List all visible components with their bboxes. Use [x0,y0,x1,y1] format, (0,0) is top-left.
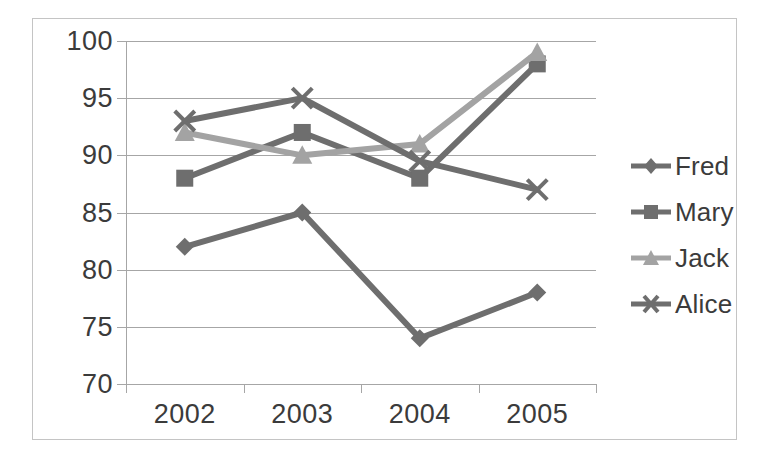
y-tick-label: 70 [41,371,113,398]
legend-label: Fred [675,151,729,182]
y-tick-label: 90 [41,142,113,169]
x-tick-label: 2002 [154,399,216,430]
x-tick-mark [244,384,245,393]
chart-frame: 100 95 90 85 80 75 70 2002 [32,18,737,440]
x-tick-label: 2004 [389,399,451,430]
data-point-diamond-icon [176,238,194,256]
legend-label: Jack [675,243,729,274]
series-layer [126,41,596,384]
legend-key-triangle-icon [629,246,673,270]
y-tick-mark [117,213,126,214]
series-line [185,64,538,178]
y-tick-mark [117,41,126,42]
series-jack [175,42,548,163]
legend-label: Mary [675,197,734,228]
y-axis-labels: 100 95 90 85 80 75 70 [41,19,113,441]
series-mary [176,55,546,186]
data-point-triangle-icon [527,42,547,61]
x-tick-label: 2003 [271,399,333,430]
data-point-square-icon [411,170,428,187]
y-tick-label: 85 [41,199,113,226]
y-tick-mark [117,98,126,99]
data-point-diamond-icon [528,284,546,302]
y-tick-label: 80 [41,256,113,283]
y-tick-mark [117,327,126,328]
legend-key-square-icon [629,200,673,224]
legend-item-jack[interactable]: Jack [629,235,739,281]
data-point-square-icon [176,170,193,187]
x-tick-mark [479,384,480,393]
x-tick-mark [361,384,362,393]
series-fred [176,204,547,348]
legend: Fred Mary Jack [629,143,739,327]
legend-item-alice[interactable]: Alice [629,281,739,327]
x-tick-mark [596,384,597,393]
data-point-square-icon [294,124,311,141]
legend-label: Alice [675,289,732,320]
series-line [185,213,538,339]
x-tick-mark [126,384,127,393]
legend-key-cross-icon [629,292,673,316]
y-tick-label: 95 [41,85,113,112]
legend-key-diamond-icon [629,154,673,178]
series-line [185,52,538,155]
legend-item-fred[interactable]: Fred [629,143,739,189]
y-tick-mark [117,155,126,156]
y-tick-label: 75 [41,313,113,340]
y-tick-mark [117,270,126,271]
y-tick-mark [117,384,126,385]
y-tick-label: 100 [41,28,113,55]
legend-item-mary[interactable]: Mary [629,189,739,235]
x-tick-label: 2005 [506,399,568,430]
series-group [175,42,548,347]
